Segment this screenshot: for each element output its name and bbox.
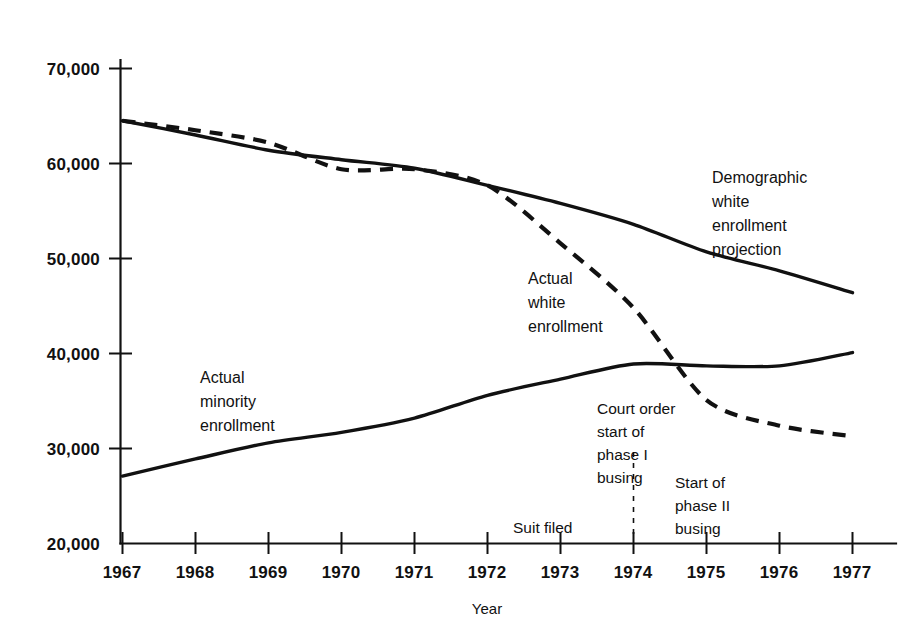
annotation-court-order-line-2: start of: [597, 423, 645, 440]
annotation-phase-2-line-1: Start of: [675, 474, 726, 491]
y-tick-labels: 70,000 60,000 50,000 40,000 30,000 20,00…: [47, 60, 100, 554]
series-label-actual-white-line-3: enrollment: [528, 318, 603, 335]
x-tick-label-1971: 1971: [395, 563, 434, 582]
annotation-phase-2-line-3: busing: [675, 520, 721, 537]
x-tick-label-1977: 1977: [833, 563, 872, 582]
axes: [121, 60, 897, 544]
annotation-phase-2-line-2: phase II: [675, 497, 730, 514]
annotation-suit-filed: Suit filed: [513, 519, 572, 536]
y-tick-label-70000: 70,000: [47, 60, 100, 79]
y-tick-label-50000: 50,000: [47, 250, 100, 269]
series-label-demographic-line-3: enrollment: [712, 217, 787, 234]
chart-canvas: 70,000 60,000 50,000 40,000 30,000 20,00…: [0, 0, 924, 639]
x-tick-label-1967: 1967: [103, 563, 142, 582]
y-tick-label-20000: 20,000: [47, 535, 100, 554]
series-label-actual-minority: Actual minority enrollment: [200, 369, 275, 434]
enrollment-line-chart: 70,000 60,000 50,000 40,000 30,000 20,00…: [0, 0, 924, 639]
annotation-court-order-line-4: busing: [597, 469, 643, 486]
annotation-suit-filed-line-1: Suit filed: [513, 519, 572, 536]
x-tick-label-1974: 1974: [614, 563, 653, 582]
series-label-actual-minority-line-1: Actual: [200, 369, 244, 386]
x-tick-labels: 1967 1968 1969 1970 1971 1972 1973 1974 …: [103, 563, 872, 582]
annotation-start-phase-2: Start of phase II busing: [675, 474, 730, 537]
series-label-demographic: Demographic white enrollment projection: [711, 169, 807, 258]
series-label-demographic-line-2: white: [711, 193, 749, 210]
x-axis-title: Year: [472, 600, 502, 617]
series-label-actual-white-line-1: Actual: [528, 270, 572, 287]
x-tick-label-1973: 1973: [541, 563, 580, 582]
x-tick-label-1975: 1975: [687, 563, 726, 582]
series-label-actual-minority-line-3: enrollment: [200, 417, 275, 434]
series-label-actual-white: Actual white enrollment: [527, 270, 603, 335]
series-label-demographic-line-1: Demographic: [712, 169, 807, 186]
y-tick-label-30000: 30,000: [47, 440, 100, 459]
x-tick-label-1968: 1968: [176, 563, 215, 582]
x-tick-label-1970: 1970: [322, 563, 361, 582]
y-tick-label-60000: 60,000: [47, 155, 100, 174]
annotation-court-order-line-1: Court order: [597, 400, 675, 417]
x-tick-label-1972: 1972: [468, 563, 507, 582]
annotation-court-order-phase-1: Court order start of phase I busing: [597, 400, 675, 486]
y-tick-label-40000: 40,000: [47, 345, 100, 364]
annotation-court-order-line-3: phase I: [597, 446, 648, 463]
series-label-actual-minority-line-2: minority: [200, 393, 256, 410]
series-label-demographic-line-4: projection: [712, 241, 781, 258]
x-tick-label-1969: 1969: [249, 563, 288, 582]
series-label-actual-white-line-2: white: [527, 294, 565, 311]
x-tick-label-1976: 1976: [760, 563, 799, 582]
